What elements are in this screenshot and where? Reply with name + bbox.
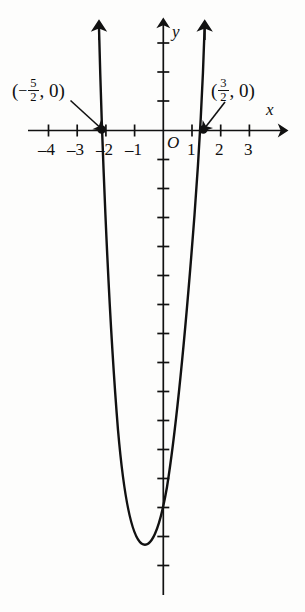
x-tick-label--2: –2	[96, 140, 113, 160]
graph-canvas: –4 –3 –2 –1 1 2 3 O x y (−52, 0) (32, 0)	[0, 0, 305, 612]
leader-right	[206, 102, 225, 127]
x-axis-label: x	[266, 100, 274, 120]
x-tick-label--4: –4	[38, 140, 55, 160]
right-paren-open: (	[211, 80, 217, 101]
left-root-annotation: (−52, 0)	[12, 78, 65, 104]
right-fraction-denominator: 2	[218, 90, 228, 104]
leader-left	[71, 101, 100, 127]
x-axis	[28, 125, 281, 137]
root-markers	[97, 125, 207, 134]
x-tick-label-2: 2	[215, 140, 224, 160]
right-paren-tail: , 0)	[230, 80, 255, 101]
right-fraction: 32	[218, 77, 228, 103]
right-fraction-numerator: 3	[218, 77, 228, 90]
origin-label: O	[167, 133, 179, 153]
x-tick-label--3: –3	[67, 140, 84, 160]
left-fraction-numerator: 5	[28, 77, 38, 90]
parabola-curve	[99, 28, 205, 545]
left-minus-sign: −	[18, 82, 27, 99]
right-root-annotation: (32, 0)	[211, 78, 255, 104]
x-tick-label--1: –1	[125, 140, 142, 160]
left-paren-tail: , 0)	[40, 80, 65, 101]
left-fraction-denominator: 2	[28, 90, 38, 104]
x-tick-label-3: 3	[244, 140, 253, 160]
left-fraction: 52	[28, 77, 38, 103]
x-tick-label-1: 1	[187, 140, 196, 160]
y-axis-label: y	[172, 22, 180, 42]
